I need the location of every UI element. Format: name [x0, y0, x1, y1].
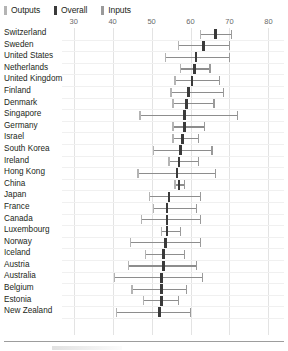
legend-label: Outputs — [11, 6, 40, 15]
inputs-marker — [204, 122, 205, 131]
x-axis-tick-label: 80 — [264, 18, 272, 26]
outputs-marker — [128, 261, 129, 270]
chart-row: Hong Kong — [62, 167, 284, 179]
chart-row: Estonia — [62, 295, 284, 307]
row-label-estonia: Estonia — [4, 295, 62, 305]
outputs-marker — [172, 99, 173, 108]
inputs-marker — [184, 180, 185, 189]
inputs-marker — [198, 157, 199, 166]
inputs-marker — [231, 30, 232, 39]
outputs-marker — [170, 88, 171, 97]
chart-row: Australia — [62, 271, 284, 283]
chart-row: Norway — [62, 237, 284, 249]
overall-marker — [166, 203, 169, 213]
inputs-marker — [223, 88, 224, 97]
inputs-marker — [200, 215, 201, 224]
row-label-japan: Japan — [4, 190, 62, 200]
range-chart: OutputsOverallInputs 304050607080 Switze… — [0, 0, 288, 351]
inputs-marker — [180, 227, 181, 236]
overall-marker — [193, 64, 196, 74]
inputs-marker — [196, 204, 197, 213]
outputs-marker — [178, 41, 179, 50]
outputs-marker — [172, 122, 173, 131]
range-line — [161, 231, 180, 232]
outputs-marker — [153, 204, 154, 213]
row-label-australia: Australia — [4, 271, 62, 281]
chart-row: South Korea — [62, 144, 284, 156]
range-line — [175, 80, 220, 81]
overall-marker — [160, 284, 163, 294]
row-label-finland: Finland — [4, 86, 62, 96]
outputs-marker — [143, 296, 144, 305]
range-line — [169, 161, 198, 162]
row-label-austria: Austria — [4, 260, 62, 270]
outputs-marker — [200, 30, 201, 39]
outputs-marker — [116, 308, 117, 317]
outputs-marker — [114, 273, 115, 282]
bottom-rule — [4, 341, 284, 342]
inputs-marker — [211, 146, 212, 155]
overall-marker — [166, 226, 169, 236]
outputs-marker — [172, 134, 173, 143]
chart-row: United Kingdom — [62, 74, 284, 86]
row-label-denmark: Denmark — [4, 98, 62, 108]
outputs-marker — [153, 146, 154, 155]
overall-marker — [158, 307, 161, 317]
inputs-marker — [219, 76, 220, 85]
range-line — [173, 138, 198, 139]
overall-marker — [166, 215, 169, 225]
overall-marker — [164, 238, 167, 248]
chart-row: Iceland — [62, 248, 284, 260]
range-line — [173, 103, 214, 104]
row-label-singapore: Singapore — [4, 109, 62, 119]
legend-item-inputs: Inputs — [101, 6, 131, 15]
chart-row: United States — [62, 51, 284, 63]
chart-row: Japan — [62, 190, 284, 202]
overall-marker — [179, 145, 182, 155]
row-label-ireland: Ireland — [4, 156, 62, 166]
inputs-marker — [178, 296, 179, 305]
overall-marker — [176, 168, 179, 178]
range-line — [154, 150, 212, 151]
row-label-norway: Norway — [4, 237, 62, 247]
overall-marker — [195, 52, 198, 62]
overall-marker — [162, 249, 165, 259]
overall-marker — [185, 99, 188, 109]
chart-row: Denmark — [62, 98, 284, 110]
overall-marker — [202, 41, 205, 51]
overall-marker — [191, 76, 194, 86]
row-label-netherlands: Netherlands — [4, 63, 62, 73]
chart-row: Germany — [62, 121, 284, 133]
inputs-marker — [198, 134, 199, 143]
chart-legend: OutputsOverallInputs — [4, 4, 145, 16]
overall-marker — [160, 273, 163, 283]
square-swatch-icon — [4, 6, 7, 15]
outputs-marker — [145, 250, 146, 259]
outputs-marker — [168, 157, 169, 166]
range-line — [173, 126, 204, 127]
outputs-marker — [174, 76, 175, 85]
square-swatch-icon — [54, 6, 57, 15]
chart-row: France — [62, 202, 284, 214]
chart-row: Canada — [62, 214, 284, 226]
outputs-marker — [174, 180, 175, 189]
outputs-marker — [141, 215, 142, 224]
inputs-marker — [190, 308, 191, 317]
inputs-marker — [196, 261, 197, 270]
chart-row: Netherlands — [62, 63, 284, 75]
range-line — [165, 57, 229, 58]
inputs-marker — [209, 64, 210, 73]
inputs-marker — [213, 99, 214, 108]
row-label-united-kingdom: United Kingdom — [4, 74, 62, 84]
square-swatch-icon — [101, 6, 104, 15]
outputs-marker — [165, 53, 166, 62]
chart-rows: SwitzerlandSwedenUnited StatesNetherland… — [62, 28, 284, 318]
row-label-china: China — [4, 179, 62, 189]
row-label-iceland: Iceland — [4, 248, 62, 258]
row-label-belgium: Belgium — [4, 283, 62, 293]
inputs-marker — [200, 192, 201, 201]
overall-marker — [178, 180, 181, 190]
row-label-switzerland: Switzerland — [4, 28, 62, 38]
inputs-marker — [186, 285, 187, 294]
footer-note — [52, 346, 122, 350]
